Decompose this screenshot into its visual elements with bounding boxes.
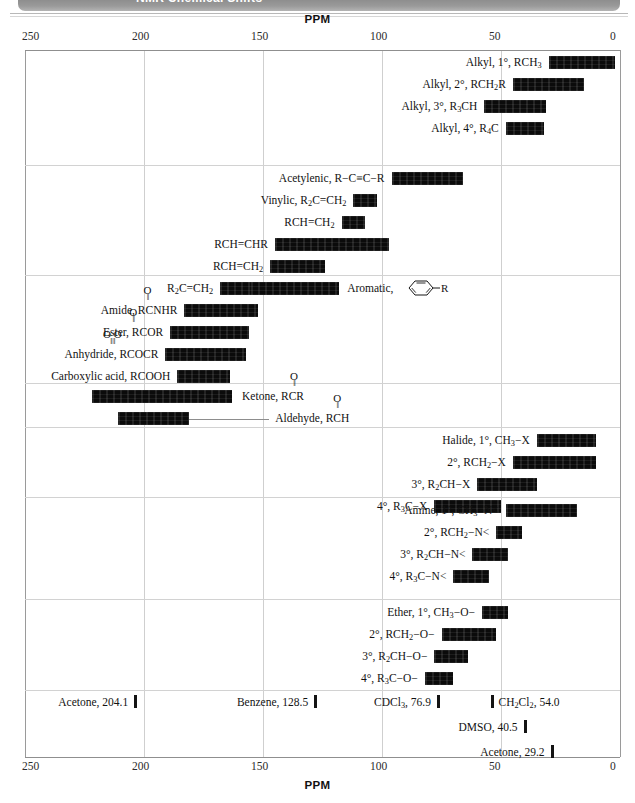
shift-range-label: 4°, R3C−N< xyxy=(390,567,447,589)
shift-range-row: Acetylenic, R−C≡C−R xyxy=(0,168,635,190)
shift-range-bar xyxy=(342,216,366,229)
shift-range-row: Carboxylic acid, RCOOH xyxy=(0,366,635,388)
shift-range-bar xyxy=(472,548,508,561)
shift-range-bar xyxy=(434,650,467,663)
shift-range-row: RCH=CH2 xyxy=(0,212,635,234)
carbonyl-oxygen-glyph: O O‖ ‖ xyxy=(98,330,126,346)
gridline-horizontal xyxy=(25,50,620,51)
shift-range-row: Amide, RCNHRO‖ xyxy=(0,300,635,322)
shift-range-row: RCH=CHR xyxy=(0,234,635,256)
benzene-ring-icon: R xyxy=(405,278,449,298)
shift-range-bar xyxy=(270,260,325,273)
shift-range-label: Ketone, RCR xyxy=(242,387,304,406)
shift-range-label: Alkyl, 4°, R4C xyxy=(431,119,499,141)
shift-range-bar xyxy=(484,100,546,113)
axis-tick-label: 100 xyxy=(370,30,387,42)
solvent-tick-marker xyxy=(491,695,494,708)
solvent-tick-marker xyxy=(524,720,527,733)
shift-range-label: Carboxylic acid, RCOOH xyxy=(51,367,170,386)
shift-range-bar xyxy=(537,434,597,447)
shift-range-bar xyxy=(425,672,454,685)
shift-range-bar xyxy=(506,122,544,135)
shift-range-label: 3°, R2CH−N< xyxy=(400,545,465,567)
shift-range-label: RCH=CH2 xyxy=(284,213,334,235)
gridline-horizontal xyxy=(25,599,620,600)
shift-range-bar xyxy=(184,304,258,317)
shift-range-label: Ether, 1°, CH3−O− xyxy=(387,603,475,625)
solvent-reference: Acetone, 29.2 xyxy=(0,743,635,763)
leader-line xyxy=(189,419,269,420)
carbonyl-oxygen-glyph: O‖ xyxy=(280,372,308,388)
shift-range-label: 3°, R2CH−O− xyxy=(362,647,427,669)
shift-range-row: 4°, R3C−O− xyxy=(0,668,635,690)
shift-range-label: 2°, RCH2−N< xyxy=(424,523,489,545)
shift-range-row: RCH=CH2 xyxy=(0,256,635,278)
axis-tick-label: 50 xyxy=(489,30,501,42)
shift-range-bar xyxy=(513,78,584,91)
shift-range-label: Vinylic, R2C=CH2 xyxy=(261,191,347,213)
shift-range-row: Alkyl, 3°, R3CH xyxy=(0,96,635,118)
solvent-reference: DMSO, 40.5 xyxy=(0,718,635,738)
shift-range-bar xyxy=(118,412,189,425)
shift-range-bar xyxy=(506,504,577,517)
shift-range-bar xyxy=(477,478,537,491)
carbonyl-oxygen-glyph: O‖ xyxy=(133,286,161,302)
shift-range-row: Ketone, RCRO‖ xyxy=(0,386,635,408)
shift-range-row: Aromatic,R xyxy=(0,278,635,300)
shift-range-row: 3°, R2CH−N< xyxy=(0,544,635,566)
shift-range-row: 2°, RCH2−X xyxy=(0,452,635,474)
shift-range-bar xyxy=(513,456,596,469)
solvent-label: DMSO, 40.5 xyxy=(459,719,518,736)
solvent-reference: CH2Cl2, 54.0 xyxy=(0,693,635,713)
shift-range-bar xyxy=(275,238,389,251)
shift-range-bar xyxy=(482,606,508,619)
shift-range-bar xyxy=(549,56,616,69)
shift-range-bar xyxy=(92,390,232,403)
shift-range-label: Aromatic, xyxy=(347,279,393,298)
shift-range-label: 4°, R3C−O− xyxy=(361,669,418,691)
axis-tick-label: 0 xyxy=(610,30,616,42)
shift-range-row: Amine, 1°, CH3−N< xyxy=(0,500,635,522)
shift-range-bar xyxy=(496,526,522,539)
carbonyl-oxygen-glyph: O‖ xyxy=(119,308,147,324)
shift-range-bar xyxy=(251,282,339,295)
shift-range-bar xyxy=(353,194,377,207)
shift-range-row: Aldehyde, RCHO‖ xyxy=(0,408,635,430)
shift-range-label: Amine, 1°, CH3−N< xyxy=(404,501,499,523)
shift-range-label: Anhydride, RCOCR xyxy=(65,345,159,364)
shift-range-row: Vinylic, R2C=CH2 xyxy=(0,190,635,212)
shift-range-bar xyxy=(165,348,246,361)
shift-range-row: Ether, 1°, CH3−O− xyxy=(0,602,635,624)
shift-range-row: Ester, RCORO‖ xyxy=(0,322,635,344)
solvent-label: CH2Cl2, 54.0 xyxy=(498,694,559,714)
shift-range-label: 2°, RCH2−X xyxy=(447,453,506,475)
shift-range-row: Halide, 1°, CH3−X xyxy=(0,430,635,452)
shift-range-bar xyxy=(177,370,229,383)
shift-range-row: 4°, R3C−N< xyxy=(0,566,635,588)
axis-title-bottom: PPM xyxy=(0,779,635,791)
shift-range-row: Alkyl, 2°, RCH2R xyxy=(0,74,635,96)
shift-range-label: Aldehyde, RCH xyxy=(275,409,349,428)
shift-range-label: Alkyl, 2°, RCH2R xyxy=(422,75,506,97)
shift-range-row: 3°, R2CH−O− xyxy=(0,646,635,668)
shift-range-label: Alkyl, 1°, RCH3 xyxy=(466,53,542,75)
gridline-horizontal xyxy=(25,165,620,166)
shift-range-row: Alkyl, 4°, R4C xyxy=(0,118,635,140)
nmr-chemical-shift-chart: PPM PPM 250200150100500 250200150100500 … xyxy=(0,0,635,803)
axis-tick-label: 150 xyxy=(251,30,268,42)
shift-range-row: Anhydride, RCOCRO O‖ ‖ xyxy=(0,344,635,366)
shift-range-bar xyxy=(442,628,497,641)
shift-range-label: RCH=CHR xyxy=(214,235,268,254)
svg-text:R: R xyxy=(441,282,449,294)
carbonyl-oxygen-glyph: O‖ xyxy=(323,394,351,410)
axis-tick-label: 200 xyxy=(132,30,149,42)
shift-range-bar xyxy=(392,172,463,185)
shift-range-row: 3°, R2CH−X xyxy=(0,474,635,496)
shift-range-row: 2°, RCH2−N< xyxy=(0,522,635,544)
axis-title-top: PPM xyxy=(0,13,635,25)
shift-range-label: Acetylenic, R−C≡C−R xyxy=(279,169,385,188)
solvent-tick-marker xyxy=(551,745,554,758)
shift-range-label: Alkyl, 3°, R3CH xyxy=(401,97,477,119)
shift-range-label: 3°, R2CH−X xyxy=(411,475,470,497)
shift-range-bar xyxy=(453,570,489,583)
